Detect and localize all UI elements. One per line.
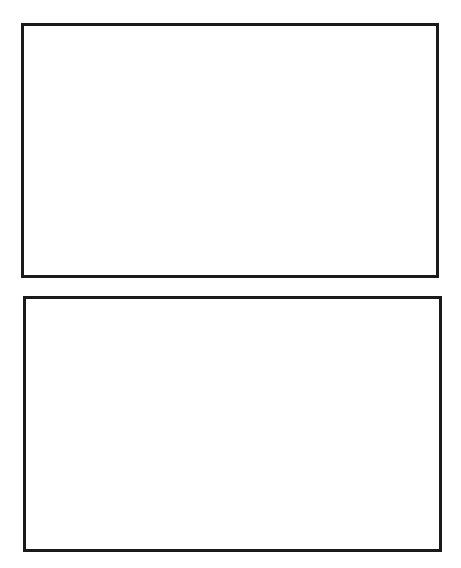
- ecg-traces: [0, 0, 461, 568]
